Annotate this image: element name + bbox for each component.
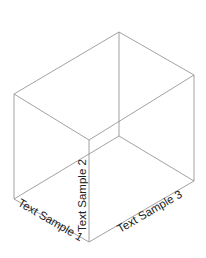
edge-bottom-back-left [14, 136, 119, 199]
edge-bottom-back-right [119, 136, 194, 181]
isometric-box-diagram: Text Sample 1 Text Sample 2 Text Sample … [0, 0, 206, 258]
label-text-sample-3: Text Sample 3 [115, 188, 184, 235]
edge-top-back-left [14, 32, 119, 94]
label-text-sample-1: Text Sample 1 [16, 196, 85, 243]
edge-top-back-right [119, 32, 194, 75]
label-text-sample-2: Text Sample 2 [76, 159, 88, 232]
edge-top-left-front [14, 94, 89, 140]
edge-top-right-front [89, 75, 194, 140]
